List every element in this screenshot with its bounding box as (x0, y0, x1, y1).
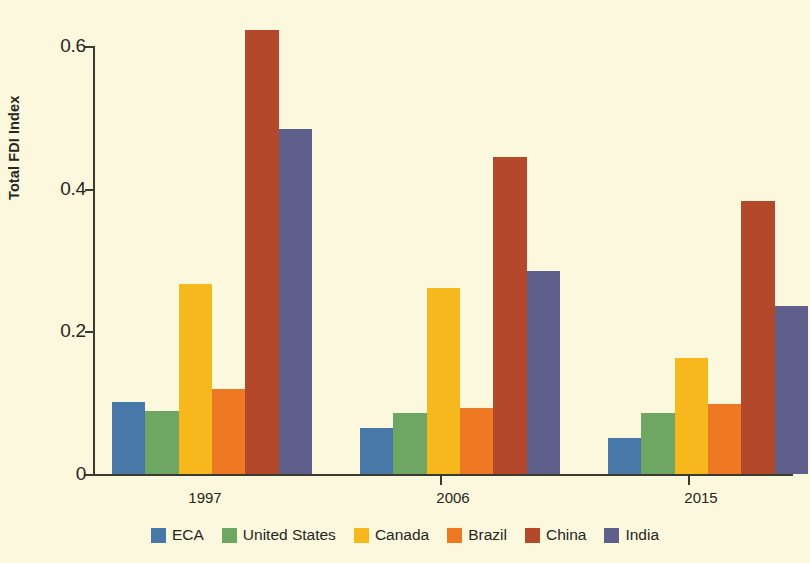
x-tick-label: 2015 (684, 489, 717, 506)
legend-label: Canada (375, 526, 429, 544)
legend-item: ECA (151, 526, 204, 544)
bar (112, 402, 145, 474)
bar (641, 413, 674, 474)
bar (179, 284, 212, 474)
legend-swatch-icon (222, 528, 237, 543)
legend-label: ECA (172, 526, 204, 544)
legend-label: India (625, 526, 659, 544)
y-tick-label: 0.2 (60, 320, 86, 342)
y-tick-mark (85, 474, 93, 476)
x-tick-label: 1997 (188, 489, 221, 506)
bar (775, 306, 808, 474)
y-tick-mark (85, 331, 93, 333)
bar (527, 271, 560, 474)
legend-label: China (546, 526, 587, 544)
bar (741, 201, 774, 474)
y-tick-label: 0.6 (60, 35, 86, 57)
legend-label: United States (243, 526, 336, 544)
bar (493, 157, 526, 474)
bars-layer (93, 46, 793, 474)
legend-label: Brazil (468, 526, 507, 544)
bar (279, 129, 312, 474)
x-tick-label: 2006 (436, 489, 469, 506)
legend-item: Brazil (447, 526, 507, 544)
bar (608, 438, 641, 474)
y-tick-mark (85, 46, 93, 48)
bar (393, 413, 426, 474)
bar (145, 411, 178, 474)
legend-item: India (604, 526, 659, 544)
y-tick-mark (85, 189, 93, 191)
bar (212, 389, 245, 474)
legend-swatch-icon (525, 528, 540, 543)
legend-swatch-icon (447, 528, 462, 543)
fdi-index-bar-chart: Total FDI Index 00.20.40.6 199720062015 … (0, 0, 810, 563)
bar (708, 404, 741, 474)
legend-swatch-icon (354, 528, 369, 543)
x-tick-mark (688, 476, 690, 485)
bar (245, 30, 278, 474)
bar (360, 428, 393, 474)
legend-swatch-icon (604, 528, 619, 543)
legend: ECAUnited StatesCanadaBrazilChinaIndia (0, 526, 810, 544)
x-tick-mark (440, 476, 442, 485)
bar (427, 288, 460, 474)
y-tick-label: 0 (76, 463, 86, 485)
bar (675, 358, 708, 474)
legend-swatch-icon (151, 528, 166, 543)
legend-item: United States (222, 526, 336, 544)
y-axis-title: Total FDI Index (6, 96, 22, 200)
bar (460, 408, 493, 474)
legend-item: Canada (354, 526, 429, 544)
legend-item: China (525, 526, 587, 544)
y-tick-label: 0.4 (60, 178, 86, 200)
